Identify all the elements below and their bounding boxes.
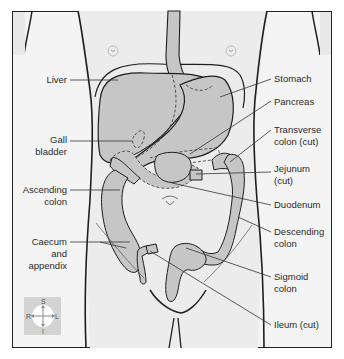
label-ileum: Ileum (cut) — [274, 319, 319, 331]
label-jejunum-line2: (cut) — [274, 175, 293, 187]
label-descending-colon-line1: Descending — [274, 226, 324, 238]
label-duodenum: Duodenum — [274, 199, 320, 211]
label-transverse-colon-line1: Transverse — [274, 124, 321, 136]
label-caecum-line2: and — [51, 248, 67, 260]
jejunum — [155, 152, 192, 182]
label-transverse-colon-line2: colon (cut) — [274, 136, 318, 148]
label-gall-bladder-line2: bladder — [35, 146, 67, 158]
compass-right: R — [26, 313, 31, 320]
compass-superior: S — [41, 298, 46, 305]
orientation-compass: S I R L — [24, 297, 61, 335]
label-jejunum-line1: Jejunum — [274, 163, 310, 175]
label-caecum-line1: Caecum — [32, 236, 67, 248]
compass-inferior: I — [42, 328, 44, 335]
label-descending-colon-line2: colon — [274, 238, 297, 250]
label-gall-bladder-line1: Gall — [50, 134, 67, 146]
label-caecum-line3: appendix — [28, 260, 67, 272]
left-arm-outline — [312, 11, 320, 55]
label-ascending-colon-line2: colon — [44, 196, 67, 208]
compass-left: L — [55, 313, 59, 320]
label-stomach: Stomach — [274, 73, 312, 85]
label-pancreas: Pancreas — [274, 96, 314, 108]
right-arm-outline — [24, 11, 32, 55]
label-ascending-colon-line1: Ascending — [23, 184, 67, 196]
label-sigmoid-colon-line2: colon — [274, 283, 297, 295]
label-liver: Liver — [46, 74, 67, 86]
label-sigmoid-colon-line1: Sigmoid — [274, 271, 308, 283]
jejunum-cut — [190, 170, 202, 180]
